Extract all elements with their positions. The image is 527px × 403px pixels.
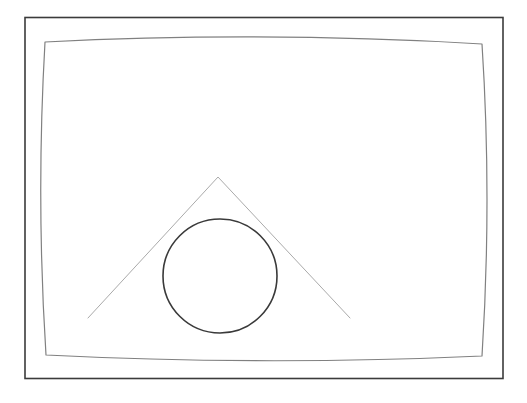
geometry-figure-svg	[0, 0, 527, 403]
figure-background	[0, 0, 527, 403]
figure-canvas	[0, 0, 527, 403]
